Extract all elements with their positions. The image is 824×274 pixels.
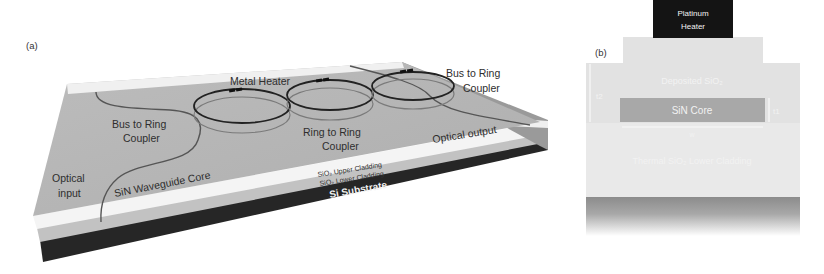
- panel-a-label: (a): [26, 40, 38, 51]
- panel-a: (a): [26, 40, 548, 262]
- label-bus-ring-right-1: Bus to Ring: [446, 67, 500, 79]
- label-optical-input-1: Optical: [52, 172, 85, 184]
- label-sin-core: SiN Core: [672, 105, 713, 116]
- label-thermal-oxide: Thermal SiO₂ Lower Cladding: [632, 156, 751, 166]
- label-ring-ring-1: Ring to Ring: [303, 126, 361, 138]
- platinum-heater-box: [653, 0, 733, 38]
- label-heater-2: Heater: [681, 22, 705, 31]
- dim-t1-label: t1: [773, 107, 780, 116]
- deposited-oxide-step: [623, 37, 763, 64]
- label-bus-ring-right-2: Coupler: [463, 82, 500, 94]
- panel-b-label: (b): [595, 47, 607, 58]
- label-heater-1: Platinum: [677, 9, 708, 18]
- dim-t2-label: t2: [596, 92, 603, 101]
- dim-w-label: w: [688, 131, 695, 138]
- label-bus-ring-left-2: Coupler: [123, 132, 160, 144]
- label-ring-ring-2: Coupler: [322, 140, 359, 152]
- label-bus-ring-left-1: Bus to Ring: [112, 118, 166, 130]
- panel-b: Platinum Heater (b) SiN Core Deposited S…: [586, 0, 800, 236]
- figure-canvas: (a): [0, 0, 824, 274]
- label-metal-heater: Metal Heater: [230, 75, 291, 87]
- si-substrate-gradient: [586, 196, 800, 236]
- label-deposited-oxide: Deposited SiO₂: [661, 76, 723, 86]
- label-optical-input-2: input: [58, 187, 81, 199]
